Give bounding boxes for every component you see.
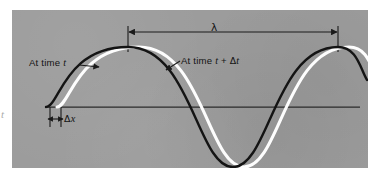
label-at-time-t-dt-variable2: t	[236, 55, 239, 66]
label-at-time-t-dt-plus: +	[218, 55, 230, 66]
label-at-time-t: At time t	[29, 58, 66, 68]
figure-page: At time t At time t + Δt λ Δx t	[0, 0, 377, 178]
label-delta-x-delta-symbol: Δ	[64, 113, 71, 124]
label-wavelength-lambda: λ	[211, 22, 217, 33]
label-at-time-t-variable: t	[63, 57, 66, 68]
label-delta-x-variable: x	[71, 113, 76, 124]
label-at-time-t-dt-prefix: At time	[181, 55, 215, 66]
margin-stray-mark: t	[1, 108, 4, 120]
label-delta-x: Δx	[64, 114, 75, 124]
label-at-time-t-prefix: At time	[29, 57, 63, 68]
label-at-time-t-plus-delta-t: At time t + Δt	[181, 56, 239, 66]
wave-diagram-svg	[0, 0, 377, 178]
